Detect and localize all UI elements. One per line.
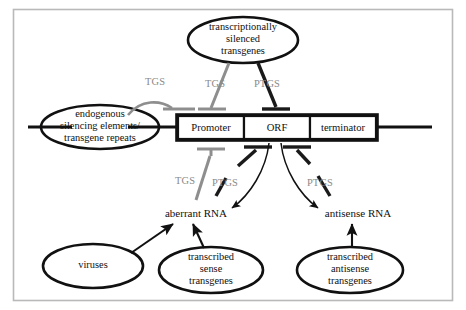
node-silenced-transgenes: transcriptionally silenced transgenes (188, 17, 298, 63)
antisense-transgenes-line-1: transcribed (327, 251, 374, 262)
silenced-transgenes-line-2: silenced (226, 33, 261, 44)
sense-transgenes-line-2: sense (200, 263, 223, 274)
gene-cassette: Promoter ORF terminator (177, 115, 378, 141)
rna-label-antisense: antisense RNA (325, 207, 391, 219)
gene-label-orf: ORF (267, 122, 288, 133)
viruses-label: viruses (78, 259, 107, 270)
process-label-ptgs-antisense: PTGS (307, 177, 333, 188)
endogenous-elements-line-3: transgene repeats (64, 132, 136, 143)
silenced-transgenes-line-1: transcriptionally (209, 21, 278, 32)
antisense-transgenes-line-2: antisense (331, 263, 369, 274)
diagram-canvas: transcriptionally silenced transgenes en… (0, 0, 466, 310)
process-label-tgs-aberrant: TGS (175, 175, 195, 186)
rna-label-aberrant: aberrant RNA (165, 207, 227, 219)
process-label-ptgs-silenced: PTGS (254, 78, 280, 89)
sense-transgenes-line-1: transcribed (188, 251, 235, 262)
process-label-ptgs-aberrant: PTGS (212, 177, 238, 188)
process-label-tgs-silenced: TGS (205, 78, 225, 89)
node-sense-transgenes: transcribed sense transgenes (159, 247, 263, 293)
endogenous-elements-line-1: endogenous (75, 108, 125, 119)
sense-transgenes-line-3: transgenes (189, 275, 233, 286)
gene-label-terminator: terminator (321, 122, 366, 133)
process-label-tgs-endogenous: TGS (145, 76, 165, 87)
silenced-transgenes-line-3: transgenes (221, 45, 265, 56)
node-viruses: viruses (43, 244, 143, 288)
gene-label-promoter: Promoter (191, 122, 231, 133)
antisense-transgenes-line-3: transgenes (328, 275, 372, 286)
node-antisense-transgenes: transcribed antisense transgenes (297, 247, 403, 293)
gene-silencing-diagram: transcriptionally silenced transgenes en… (0, 0, 466, 310)
